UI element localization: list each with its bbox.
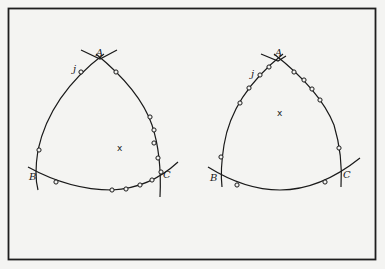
left-arc-bc	[28, 162, 178, 190]
left-label-b: B	[28, 171, 36, 182]
right-triangle: A j B C x	[208, 47, 360, 190]
left-observation-points	[37, 70, 163, 192]
left-label-j: j	[71, 63, 76, 74]
right-observation-points	[219, 65, 341, 187]
left-arc-ab	[36, 54, 104, 190]
left-label-a: A	[95, 47, 103, 58]
right-label-j: j	[249, 68, 254, 79]
figure-frame	[9, 9, 376, 260]
left-arc-ac	[96, 54, 160, 197]
right-label-a: A	[274, 47, 282, 58]
left-center-mark: x	[117, 143, 123, 153]
right-center-mark: x	[277, 108, 283, 118]
right-label-b: B	[209, 172, 217, 183]
right-arc-bc	[208, 158, 360, 190]
right-label-c: C	[343, 169, 351, 180]
left-label-c: C	[163, 169, 171, 180]
right-arc-ac	[274, 54, 341, 187]
spherical-triangle-figure: A j B C x A j B C x	[0, 0, 385, 269]
left-triangle: A j B C x	[28, 47, 178, 197]
